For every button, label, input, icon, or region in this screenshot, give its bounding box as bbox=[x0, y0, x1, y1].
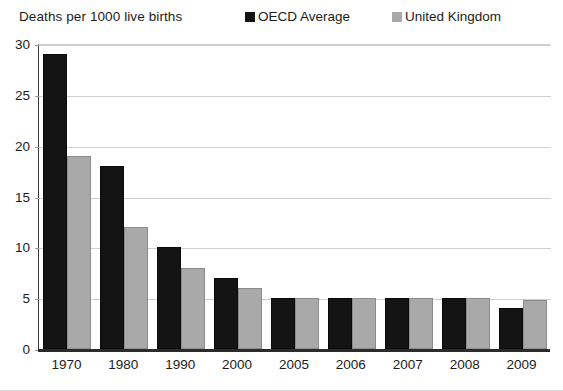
legend-item-united-kingdom: United Kingdom bbox=[392, 10, 501, 23]
bar-1980-united-kingdom bbox=[124, 227, 148, 349]
y-axis-tick-mark bbox=[35, 299, 39, 300]
bar-2008-united-kingdom bbox=[466, 298, 490, 349]
legend-label-oecd-average: OECD Average bbox=[258, 10, 350, 23]
plot-area bbox=[38, 44, 550, 349]
x-axis-tick-label: 2000 bbox=[209, 357, 266, 372]
x-axis-tick-label: 2005 bbox=[266, 357, 323, 372]
legend-item-oecd-average: OECD Average bbox=[245, 10, 350, 23]
gridline bbox=[39, 96, 551, 97]
legend-swatch-icon-united-kingdom bbox=[392, 12, 402, 22]
x-axis-tick-label: 1980 bbox=[95, 357, 152, 372]
x-axis-tick-label: 2009 bbox=[493, 357, 550, 372]
bar-2000-oecd-average bbox=[214, 278, 238, 349]
bar-2006-united-kingdom bbox=[352, 298, 376, 349]
chart-header: Deaths per 1000 live births OECD Average… bbox=[0, 6, 563, 32]
x-axis-tick-label: 2008 bbox=[436, 357, 493, 372]
y-axis-tick-label: 20 bbox=[0, 138, 30, 153]
y-axis-tick-mark bbox=[35, 147, 39, 148]
y-axis-tick-label: 0 bbox=[0, 342, 30, 357]
y-axis-tick-mark bbox=[35, 198, 39, 199]
bar-2007-united-kingdom bbox=[409, 298, 433, 349]
bar-2000-united-kingdom bbox=[238, 288, 262, 349]
y-axis-tick-label: 30 bbox=[0, 37, 30, 52]
x-axis-tick-label: 2006 bbox=[322, 357, 379, 372]
bar-1970-united-kingdom bbox=[67, 156, 91, 349]
bar-2008-oecd-average bbox=[442, 298, 466, 349]
legend-swatch-icon-oecd-average bbox=[245, 12, 255, 22]
legend-label-united-kingdom: United Kingdom bbox=[405, 10, 501, 23]
bar-2007-oecd-average bbox=[385, 298, 409, 349]
y-axis-tick-label: 5 bbox=[0, 291, 30, 306]
x-axis-tick-label: 1990 bbox=[152, 357, 209, 372]
y-axis-tick-mark bbox=[35, 45, 39, 46]
bar-1990-united-kingdom bbox=[181, 268, 205, 349]
bar-2005-oecd-average bbox=[271, 298, 295, 349]
x-axis-line bbox=[38, 349, 550, 352]
x-axis-tick-label: 2007 bbox=[379, 357, 436, 372]
y-axis-tick-label: 15 bbox=[0, 189, 30, 204]
y-axis-tick-mark bbox=[35, 96, 39, 97]
bar-2005-united-kingdom bbox=[295, 298, 319, 349]
bar-2009-united-kingdom bbox=[523, 300, 547, 349]
gridline bbox=[39, 147, 551, 148]
x-axis-tick-label: 1970 bbox=[38, 357, 95, 372]
bar-2006-oecd-average bbox=[328, 298, 352, 349]
chart-axis-title: Deaths per 1000 live births bbox=[19, 9, 182, 24]
bar-1980-oecd-average bbox=[100, 166, 124, 349]
bar-1990-oecd-average bbox=[157, 247, 181, 349]
bar-1970-oecd-average bbox=[43, 54, 67, 349]
bar-2009-oecd-average bbox=[499, 308, 523, 349]
y-axis-tick-label: 10 bbox=[0, 240, 30, 255]
y-axis-tick-mark bbox=[35, 248, 39, 249]
gridline bbox=[39, 45, 551, 46]
y-axis-tick-label: 25 bbox=[0, 87, 30, 102]
infant-mortality-bar-chart: Deaths per 1000 live births OECD Average… bbox=[0, 0, 563, 391]
